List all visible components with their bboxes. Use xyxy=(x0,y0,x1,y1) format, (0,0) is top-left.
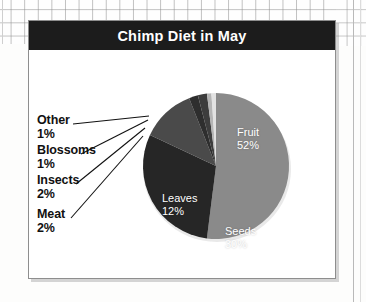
pie-label-fruit: Fruit 52% xyxy=(237,126,259,151)
chart-panel: Chimp Diet in May xyxy=(28,20,336,279)
pie-label-leaves: Leaves 12% xyxy=(162,192,197,217)
pie-callout-insects-value: 2% xyxy=(37,187,79,201)
pie-callout-insects: Insects 2% xyxy=(37,173,79,201)
pie-label-fruit-value: 52% xyxy=(237,139,259,152)
page-margin-rule-right xyxy=(353,0,354,302)
pie-label-leaves-value: 12% xyxy=(162,205,197,218)
pie-slice-fruit[interactable] xyxy=(207,93,289,239)
pie-callout-blossoms: Blossoms 1% xyxy=(37,143,96,171)
pie-chart-plot-area: Fruit 52% Seeds 30% Leaves 12% Other 1% … xyxy=(29,50,335,278)
pie-label-seeds-value: 30% xyxy=(225,238,256,251)
page-margin-rule-left xyxy=(2,0,3,44)
pie-label-leaves-name: Leaves xyxy=(162,192,197,204)
pie-callout-other-name: Other xyxy=(37,113,70,127)
pie-callout-other: Other 1% xyxy=(37,113,70,141)
pie-callout-other-value: 1% xyxy=(37,127,70,141)
chart-panel-body: Chimp Diet in May xyxy=(28,20,336,279)
pie-label-seeds-name: Seeds xyxy=(225,225,256,237)
pie-label-seeds: Seeds 30% xyxy=(225,225,256,250)
chart-title-bar: Chimp Diet in May xyxy=(29,21,335,50)
pie-callout-meat-name: Meat xyxy=(37,207,65,221)
page-edge-rule xyxy=(360,0,361,302)
pie-callout-blossoms-name: Blossoms xyxy=(37,143,96,157)
pie-callout-meat-value: 2% xyxy=(37,221,65,235)
leader-line-other xyxy=(73,116,149,124)
pie-label-fruit-name: Fruit xyxy=(237,126,259,138)
chart-title: Chimp Diet in May xyxy=(117,28,246,44)
pie-callout-insects-name: Insects xyxy=(37,173,79,187)
pie-callout-meat: Meat 2% xyxy=(37,207,65,235)
pie-callout-blossoms-value: 1% xyxy=(37,157,96,171)
graph-paper-right-strip xyxy=(336,0,366,46)
